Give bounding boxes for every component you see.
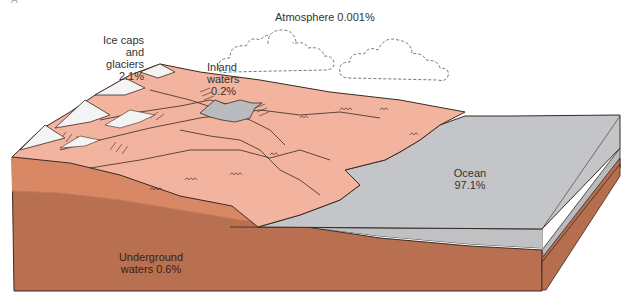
inland-label-line1: Inland <box>207 61 239 73</box>
inland-label-line2: waters <box>207 73 239 85</box>
atmosphere-label: Atmosphere 0.001% <box>275 11 375 23</box>
ocean-label-line1: Ocean <box>448 167 492 179</box>
ocean-label: Ocean 97.1% <box>448 167 492 191</box>
atmosphere-label-text: Atmosphere 0.001% <box>275 11 375 23</box>
ice-label-line2: glaciers <box>82 58 144 70</box>
ice-label-line3: 2.1% <box>82 70 144 82</box>
underground-label-line1: Underground <box>116 251 186 263</box>
inland-label-line3: 0.2% <box>207 85 239 97</box>
underground-waters-label: Underground waters 0.6% <box>116 251 186 275</box>
ocean-label-line2: 97.1% <box>448 179 492 191</box>
ice-label-line1: Ice caps and <box>82 34 144 58</box>
ice-caps-label: Ice caps and glaciers 2.1% <box>82 34 144 82</box>
clouds <box>218 30 448 81</box>
inland-waters-label: Inland waters 0.2% <box>207 61 239 97</box>
underground-label-line2: waters 0.6% <box>116 263 186 275</box>
